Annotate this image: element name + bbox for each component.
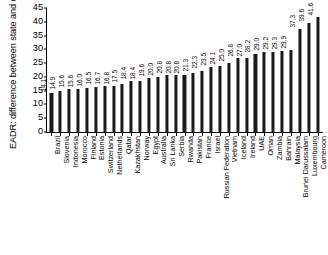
bar[interactable] [174,75,177,132]
bar[interactable] [59,91,62,132]
bar[interactable] [183,75,186,132]
bar-value-label: 29.0 [254,38,261,51]
x-axis-category-label: Cameroon [320,136,327,170]
bar[interactable] [201,71,204,132]
bar[interactable] [298,29,301,132]
bar-value-label: 14.9 [50,77,57,90]
x-axis-category-label: Sri Lanka [169,136,176,166]
bar-slot[interactable]: 41.6 [313,8,322,132]
bar-value-label: 20.0 [148,63,155,76]
bar-value-label: 29.9 [281,35,288,48]
x-axis-tick-mark [78,133,79,136]
x-axis-category-label: Brunei Darussalam [302,136,309,197]
bar-slot[interactable]: 28.2 [251,8,260,132]
bar[interactable] [316,17,319,132]
bar[interactable] [85,88,88,132]
y-axis-tick-label: 35 [33,31,43,40]
x-axis-tick-mark [202,133,203,136]
x-axis-category-label: Vietnam [231,136,238,162]
x-axis-category-label: Zambia [276,136,283,160]
bar-value-label: 28.2 [246,40,253,53]
x-axis-tick-mark [51,133,52,136]
bar[interactable] [103,86,106,132]
bar-value-label: 18.4 [130,67,137,80]
x-axis-tick-mark [122,133,123,136]
bar[interactable] [307,23,310,132]
bar[interactable] [218,66,221,132]
bar-slot[interactable]: 39.6 [304,8,313,132]
x-axis-category-label: Luxembourg [311,136,318,176]
bar[interactable] [227,63,230,132]
x-axis-category-label: Serbia [178,136,185,157]
bar-slot[interactable]: 15.6 [74,8,83,132]
bar-slot[interactable]: 23.5 [207,8,216,132]
bar-slot[interactable]: 21.3 [189,8,198,132]
bar[interactable] [254,54,257,132]
x-axis-category-label: Brazil [54,136,61,154]
y-axis-tick-label: 40 [33,17,43,26]
bar-slot[interactable]: 29.2 [269,8,278,132]
bar-slot[interactable]: 29.0 [260,8,269,132]
bar-value-label: 27.0 [237,43,244,56]
bar-slot[interactable]: 22.3 [198,8,207,132]
bar-slot[interactable]: 25.0 [224,8,233,132]
bar-slot[interactable]: 29.3 [278,8,287,132]
bar[interactable] [210,67,213,132]
bar[interactable] [147,78,150,132]
bar[interactable] [289,50,292,132]
bar-value-label: 14.1 [42,79,49,92]
bar[interactable] [68,89,71,132]
bar[interactable] [272,52,275,132]
bar[interactable] [245,58,248,132]
y-axis-tick-label: 45 [33,3,43,12]
x-axis-tick-mark [229,133,230,136]
bar-value-label: 16.5 [86,72,93,85]
bar[interactable] [76,89,79,132]
bar-slot[interactable]: 27.0 [242,8,251,132]
bar[interactable] [50,93,53,132]
y-axis-tick-label: 0 [38,127,43,136]
x-axis-tick-mark [264,133,265,136]
bar-slot[interactable]: 24.1 [216,8,225,132]
x-axis-category-label: Netherlands [116,136,123,175]
bar-value-label: 37.3 [290,15,297,28]
x-axis-category-label: Bahrain [285,136,292,161]
bar-value-label: 15.6 [59,75,66,88]
bar-value-label: 26.8 [228,44,235,57]
x-axis-tick-mark [140,133,141,136]
bar[interactable] [139,81,142,132]
bar[interactable] [121,84,124,132]
y-axis-tick-label: 10 [33,100,43,109]
bar[interactable] [236,58,239,132]
x-axis-tick-mark [158,133,159,136]
bar-slot[interactable]: 37.3 [295,8,304,132]
bar[interactable] [156,77,159,132]
bar-value-label: 29.3 [272,37,279,50]
x-axis-tick-mark [149,133,150,136]
bar[interactable] [94,87,97,132]
bar-value-label: 15.6 [68,75,75,88]
bar-slot[interactable]: 16.0 [82,8,91,132]
y-axis-tick-label: 5 [38,114,43,123]
bar-slot[interactable]: 15.6 [65,8,74,132]
bar-slot[interactable]: 16.5 [91,8,100,132]
bar[interactable] [281,51,284,132]
y-axis-tick-label: 25 [33,59,43,68]
y-axis-title-container: EADR: difference between state and obser… [0,0,26,150]
bar[interactable] [192,73,195,132]
x-axis-tick-mark [87,133,88,136]
bar-value-label: 25.0 [219,49,226,62]
bar-value-label: 41.6 [308,3,315,16]
bar-value-label: 16.0 [77,74,84,87]
bar-slot[interactable]: 14.9 [56,8,65,132]
x-axis-category-label: Oman [267,136,274,156]
bar-slot[interactable]: 26.8 [233,8,242,132]
bar-value-label: 39.6 [299,9,306,22]
x-axis-category-label: Egypt [152,136,159,154]
bar[interactable] [263,52,266,132]
bar-slot[interactable]: 14.1 [47,8,56,132]
bar[interactable] [165,75,168,132]
bar-slot[interactable]: 16.7 [100,8,109,132]
bar[interactable] [112,86,115,132]
bar[interactable] [130,81,133,132]
